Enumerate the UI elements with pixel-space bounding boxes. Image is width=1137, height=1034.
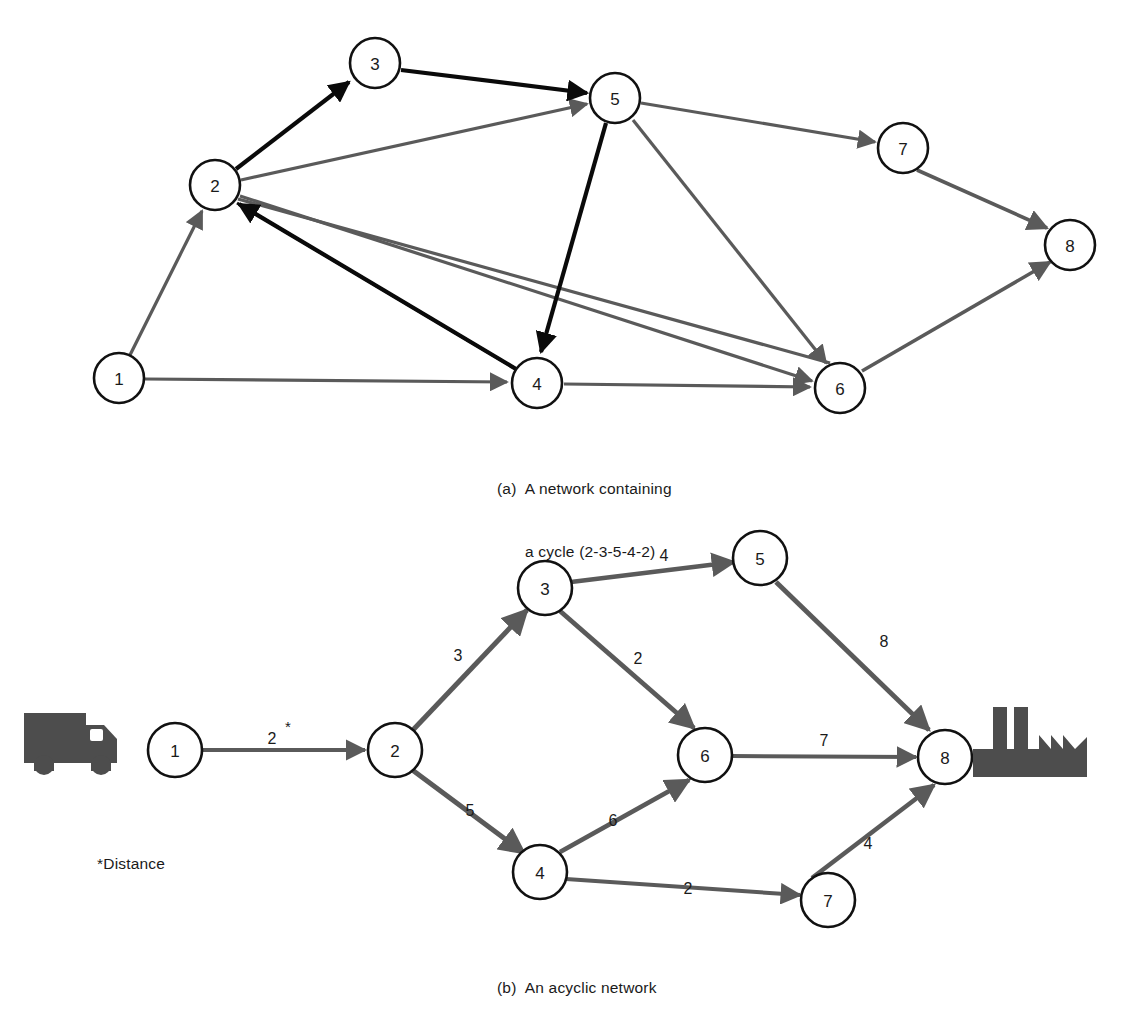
edge-label-b-4-6: 6 (609, 812, 618, 829)
edge-2-3-cycle (236, 82, 349, 169)
panel-a-nodes: 1 2 3 4 5 6 7 (94, 38, 1095, 413)
caption-panel-a: (a) A network containing a cycle (2-3-5-… (497, 436, 672, 604)
edge-label-b-7-8: 4 (864, 835, 873, 852)
node-b-5[interactable]: 5 (733, 531, 787, 585)
node-a-8-label: 8 (1065, 237, 1074, 256)
edge-1-4 (145, 379, 507, 382)
factory-icon (969, 705, 1107, 781)
node-a-4-label: 4 (532, 375, 541, 394)
edge-4-6 (564, 384, 810, 387)
edge-b-3-6 (560, 611, 694, 728)
edge-5-4-cycle (541, 123, 606, 352)
node-b-8-label: 8 (940, 749, 949, 768)
edge-b-4-6 (560, 780, 689, 852)
truck-icon (22, 703, 134, 781)
edge-4-2-cycle-shadow (237, 203, 516, 369)
node-b-8[interactable]: 8 (918, 730, 972, 784)
caption-a-line1: (a) A network containing (497, 478, 672, 499)
node-a-5[interactable]: 5 (590, 73, 640, 123)
panel-a-edges (130, 70, 1050, 387)
node-b-4[interactable]: 4 (513, 845, 567, 899)
node-b-2-label: 2 (390, 742, 399, 761)
edge-3-5-cycle (401, 70, 587, 93)
distance-asterisk-marker: * (285, 718, 291, 735)
distance-footnote: *Distance (97, 855, 165, 873)
edge-label-b-1-2: 2 (268, 730, 277, 747)
node-a-6-label: 6 (835, 380, 844, 399)
edge-2-5 (241, 104, 587, 180)
edge-label-b-4-7: 2 (684, 880, 693, 897)
node-a-3-label: 3 (370, 55, 379, 74)
edge-1-2 (130, 211, 202, 355)
edge-6-8 (862, 262, 1050, 371)
edge-label-b-3-6: 2 (634, 650, 643, 667)
panel-b-edges (202, 562, 934, 895)
edge-label-b-5-8: 8 (880, 633, 889, 650)
node-a-8[interactable]: 8 (1045, 220, 1095, 270)
edge-b-2-3 (412, 610, 527, 731)
edge-label-b-6-8: 7 (820, 732, 829, 749)
node-b-7[interactable]: 7 (801, 873, 855, 927)
edge-5-7 (641, 103, 875, 142)
edge-b-7-8 (812, 785, 934, 878)
node-a-4[interactable]: 4 (512, 358, 562, 408)
node-a-3[interactable]: 3 (350, 38, 400, 88)
node-a-7[interactable]: 7 (878, 123, 928, 173)
node-b-6[interactable]: 6 (678, 728, 732, 782)
edge-7-8 (917, 170, 1047, 228)
node-b-7-label: 7 (823, 892, 832, 911)
node-b-1-label: 1 (170, 742, 179, 761)
edge-6-2 (238, 199, 830, 363)
figure-networks: 1 2 3 4 5 6 7 (0, 0, 1137, 1034)
edge-b-6-8 (732, 756, 916, 757)
node-a-1[interactable]: 1 (94, 353, 144, 403)
node-b-4-label: 4 (535, 864, 544, 883)
edge-label-b-2-3: 3 (454, 647, 463, 664)
node-a-7-label: 7 (898, 140, 907, 159)
node-a-1-label: 1 (114, 370, 123, 389)
edge-label-b-2-4: 5 (466, 802, 475, 819)
node-b-6-label: 6 (700, 747, 709, 766)
node-b-5-label: 5 (755, 550, 764, 569)
node-b-1[interactable]: 1 (148, 723, 202, 777)
edge-b-5-8 (776, 582, 929, 730)
node-a-2[interactable]: 2 (190, 160, 240, 210)
node-a-5-label: 5 (610, 90, 619, 109)
node-b-2[interactable]: 2 (368, 723, 422, 777)
node-a-6[interactable]: 6 (815, 363, 865, 413)
caption-a-line2: a cycle (2-3-5-4-2) (497, 541, 672, 562)
edge-5-6 (633, 120, 826, 363)
node-a-2-label: 2 (210, 177, 219, 196)
caption-panel-b: (b) An acyclic network (497, 977, 657, 998)
